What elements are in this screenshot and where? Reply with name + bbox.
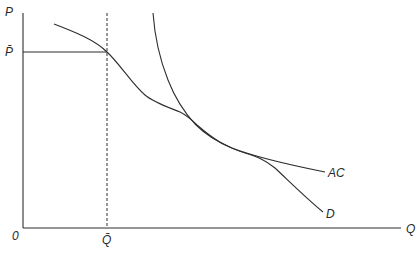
- quantity-label: Q̄: [102, 233, 111, 247]
- demand-label: D: [326, 207, 335, 221]
- x-axis-label: Q: [406, 222, 415, 236]
- average-cost-label: AC: [327, 166, 345, 180]
- cost-demand-diagram: P P̄ 0 Q̄ Q AC D: [0, 0, 419, 257]
- origin-label: 0: [12, 229, 19, 243]
- y-axis-label: P: [5, 5, 13, 19]
- price-label: P̄: [5, 45, 13, 59]
- average-cost-curve: [153, 13, 325, 172]
